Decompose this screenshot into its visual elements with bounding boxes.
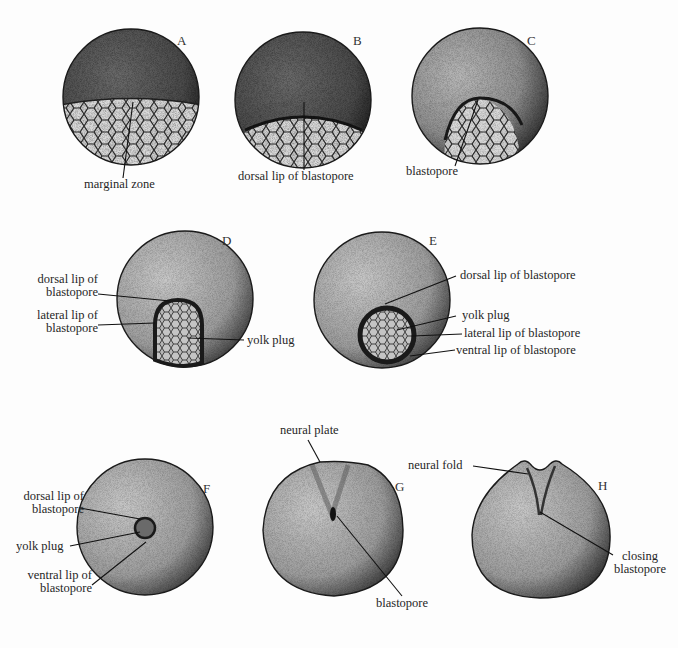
label-c-blastopore: blastopore (406, 165, 458, 178)
embryo-e (314, 232, 462, 368)
label-h-neural-fold: neural fold (408, 459, 463, 472)
embryo-b (235, 32, 371, 170)
panel-letter-g: G (395, 479, 404, 495)
embryo-h (472, 461, 613, 598)
label-d-lateral-lip: lateral lip of blastopore (22, 309, 98, 335)
gastrulation-diagram (0, 0, 678, 648)
panel-letter-h: H (598, 478, 607, 494)
label-e-yolk-plug: yolk plug (462, 309, 510, 322)
label-b-dorsal-lip: dorsal lip of blastopore (238, 170, 354, 183)
label-d-dorsal-line2: blastopore (22, 286, 98, 299)
label-d-yolk-plug: yolk plug (247, 334, 295, 347)
label-g-neural-plate: neural plate (280, 424, 339, 437)
label-f-yolk-plug: yolk plug (16, 540, 64, 553)
label-e-lateral-lip: lateral lip of blastopore (464, 327, 580, 340)
label-f-ventral-lip: ventral lip of blastopore (4, 569, 92, 595)
panel-letter-c: C (527, 33, 536, 49)
label-h-closing-blastopore: closing blastopore (607, 550, 673, 576)
panel-letter-a: A (177, 33, 186, 49)
panel-letter-f: F (203, 481, 210, 497)
embryo-a (60, 29, 202, 178)
panel-letter-e: E (429, 233, 437, 249)
label-h-closing-line2: blastopore (607, 563, 673, 576)
label-f-ventral-line2: blastopore (4, 582, 92, 595)
label-e-dorsal-lip: dorsal lip of blastopore (460, 269, 576, 282)
label-f-dorsal-line2: blastopore (4, 503, 84, 516)
label-g-blastopore: blastopore (376, 597, 428, 610)
label-e-ventral-lip: ventral lip of blastopore (456, 344, 576, 357)
embryo-d (98, 231, 253, 367)
panel-letter-b: B (353, 33, 362, 49)
label-d-lateral-line2: blastopore (22, 322, 98, 335)
embryo-g (263, 440, 403, 596)
panel-letter-d: D (222, 233, 231, 249)
label-f-dorsal-lip: dorsal lip of blastopore (4, 490, 84, 516)
label-d-dorsal-lip: dorsal lip of blastopore (22, 273, 98, 299)
label-marginal-zone: marginal zone (84, 178, 155, 191)
